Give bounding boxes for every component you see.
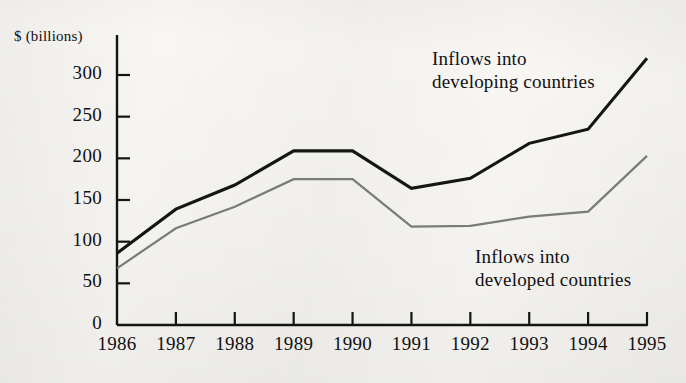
annotation-line: Inflows into [432, 47, 595, 70]
y-axis-title: $ (billions) [14, 28, 83, 45]
y-tick-label: 0 [30, 312, 102, 334]
annotation-line: Inflows into [475, 245, 631, 268]
annotation-line: developed countries [475, 268, 631, 291]
annotation-line: developing countries [432, 70, 595, 93]
y-tick-label: 150 [30, 187, 102, 209]
developed-annotation: Inflows intodeveloped countries [475, 245, 631, 291]
y-tick-label: 200 [30, 145, 102, 167]
chart-page: $ (billions) 050100150200250300 19861987… [0, 0, 686, 383]
x-tick-label: 1995 [610, 333, 684, 355]
developing-annotation: Inflows intodeveloping countries [432, 47, 595, 93]
y-tick-label: 100 [30, 229, 102, 251]
y-tick-label: 50 [30, 270, 102, 292]
y-tick-label: 300 [30, 62, 102, 84]
y-tick-label: 250 [30, 104, 102, 126]
